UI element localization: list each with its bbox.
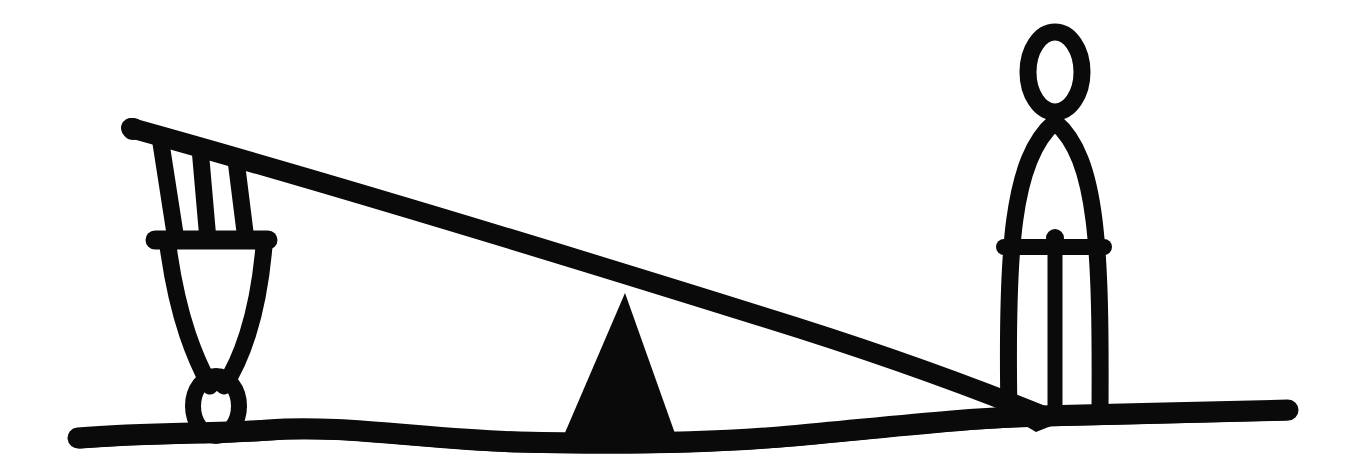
plank-left-tip	[122, 118, 144, 140]
seesaw-drawing	[0, 0, 1369, 471]
illustration-canvas: Seesaw Lever Illustration A hand-drawn s…	[0, 0, 1369, 471]
left-figure-arm-inner	[200, 148, 208, 240]
right-figure-belt-knot	[1046, 229, 1064, 247]
left-figure-shoulder-edge	[236, 160, 246, 240]
